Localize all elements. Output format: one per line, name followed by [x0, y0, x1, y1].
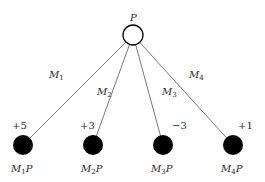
leaf-circle-2	[83, 135, 103, 155]
leaves-layer: +5M1P+3M2P−3M3P+1M4P	[10, 120, 253, 176]
leaf-value-4: +1	[238, 120, 253, 131]
leaf-value-1: +5	[12, 120, 27, 131]
leaf-node-3: −3M3P	[150, 120, 187, 176]
edge-line-1	[23, 35, 133, 145]
tree-diagram: M1M2M3M4 +5M1P+3M2P−3M3P+1M4P P	[0, 0, 265, 182]
leaf-name-4: M4P	[220, 163, 243, 176]
root-circle	[123, 25, 143, 45]
tree-diagram-svg: M1M2M3M4 +5M1P+3M2P−3M3P+1M4P P	[0, 0, 265, 182]
leaf-name-3: M3P	[150, 163, 173, 176]
edge-label-2: M2	[96, 86, 112, 99]
edge-label-1: M1	[48, 69, 64, 82]
leaf-value-2: +3	[80, 120, 95, 131]
leaf-name-1: M1P	[10, 163, 33, 176]
leaf-circle-4	[223, 135, 243, 155]
leaf-value-3: −3	[172, 120, 187, 131]
leaf-node-1: +5M1P	[10, 120, 33, 176]
edge-labels-layer: M1M2M3M4	[48, 69, 204, 99]
root-label: P	[129, 12, 137, 23]
edge-label-3: M3	[161, 86, 177, 99]
root-node: P	[123, 12, 143, 45]
edge-label-4: M4	[188, 69, 204, 82]
leaf-circle-1	[13, 135, 33, 155]
leaf-node-2: +3M2P	[80, 120, 103, 176]
leaf-circle-3	[153, 135, 173, 155]
leaf-name-2: M2P	[80, 163, 103, 176]
leaf-node-4: +1M4P	[220, 120, 253, 176]
root-layer: P	[123, 12, 143, 45]
edges-layer	[23, 35, 233, 145]
